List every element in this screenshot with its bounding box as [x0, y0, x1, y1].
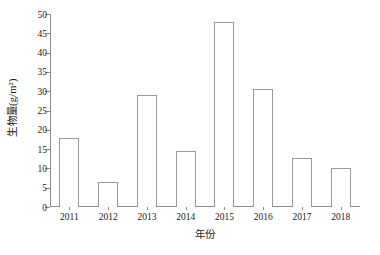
y-tick-label: 0	[42, 203, 47, 213]
bar	[292, 158, 312, 207]
y-tick: 50	[50, 14, 51, 15]
x-tick-label: 2018	[331, 212, 350, 222]
y-tick-label: 25	[38, 106, 48, 116]
y-axis-title: 生物量(g/m²)	[0, 0, 22, 215]
y-tick-label: 30	[38, 87, 48, 97]
x-axis-line	[50, 206, 360, 207]
y-tick: 20	[50, 130, 51, 131]
y-tick: 40	[50, 53, 51, 54]
y-tick-label: 45	[38, 29, 48, 39]
x-axis-title: 年份	[50, 226, 360, 241]
y-tick-label: 50	[38, 10, 48, 20]
bar	[59, 138, 79, 207]
x-tick-label: 2014	[176, 212, 195, 222]
x-tick-label: 2012	[99, 212, 118, 222]
y-tick-label: 35	[38, 67, 48, 77]
x-tick-label: 2015	[215, 212, 234, 222]
y-tick: 30	[50, 91, 51, 92]
y-tick: 0	[50, 207, 51, 208]
y-tick-label: 40	[38, 48, 48, 58]
y-tick: 45	[50, 33, 51, 34]
bar	[253, 89, 273, 207]
y-tick-label: 15	[38, 145, 48, 155]
y-axis-title-label: 生物量(g/m²)	[4, 78, 19, 136]
x-tick-label: 2016	[254, 212, 273, 222]
bar	[137, 95, 157, 207]
y-tick-label: 5	[42, 183, 47, 193]
bar	[98, 182, 118, 207]
bar	[331, 168, 351, 207]
y-tick: 35	[50, 72, 51, 73]
plot-area: 05101520253035404550 2011201220132014201…	[50, 14, 360, 207]
y-tick: 5	[50, 188, 51, 189]
y-tick-label: 10	[38, 164, 48, 174]
x-tick-label: 2011	[60, 212, 79, 222]
y-tick-label: 20	[38, 125, 48, 135]
bar	[176, 151, 196, 207]
y-tick: 15	[50, 149, 51, 150]
y-tick: 10	[50, 168, 51, 169]
y-tick: 25	[50, 111, 51, 112]
bar	[214, 22, 234, 207]
biomass-bar-chart: 生物量(g/m²) 05101520253035404550 201120122…	[0, 0, 380, 255]
x-tick-label: 2013	[137, 212, 156, 222]
x-tick-label: 2017	[292, 212, 311, 222]
